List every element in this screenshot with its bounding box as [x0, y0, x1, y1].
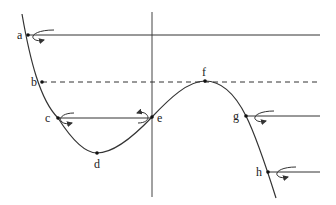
point-g	[244, 114, 248, 118]
point-c	[56, 116, 60, 120]
label-h: h	[256, 165, 262, 179]
label-e: e	[157, 111, 162, 125]
point-e	[150, 115, 154, 119]
label-b: b	[31, 75, 37, 89]
cubic-curve	[22, 14, 276, 198]
point-h	[266, 170, 270, 174]
label-f: f	[202, 65, 206, 79]
points	[26, 33, 270, 174]
cubic-phase-diagram: a b c d e f g h	[0, 0, 336, 205]
label-c: c	[45, 111, 50, 125]
label-g: g	[233, 109, 239, 123]
point-f	[203, 79, 207, 83]
label-d: d	[94, 157, 100, 171]
point-a	[26, 33, 30, 37]
point-d	[95, 151, 99, 155]
point-b	[40, 80, 44, 84]
label-a: a	[17, 28, 23, 42]
